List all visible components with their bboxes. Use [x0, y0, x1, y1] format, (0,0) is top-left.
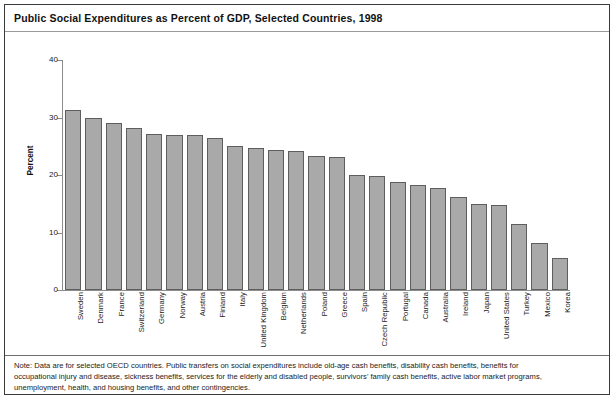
bar-slot [349, 60, 365, 290]
x-axis-tick-label: United States [502, 292, 511, 339]
bar [187, 135, 203, 290]
bar-slot [308, 60, 324, 290]
bar [288, 151, 304, 290]
x-axis-tick-label: Turkey [522, 292, 531, 316]
bar-slot [166, 60, 182, 290]
y-axis-tick-label: 10 [18, 228, 58, 237]
bar [349, 175, 365, 290]
title-divider [5, 31, 609, 32]
bar-slot [187, 60, 203, 290]
bar [65, 110, 81, 290]
x-axis-tick-label: Belgium [279, 292, 288, 320]
bar [410, 185, 426, 290]
bar-slot [85, 60, 101, 290]
bar [248, 148, 264, 290]
x-axis-tick-label: Netherlands [299, 292, 308, 334]
figure-note: Note: Data are for selected OECD countri… [14, 360, 600, 394]
bar-slot [410, 60, 426, 290]
bar [166, 135, 182, 290]
bar-slot [106, 60, 122, 290]
bar-slot [207, 60, 223, 290]
note-line: unemployment, health, and housing benefi… [14, 382, 600, 393]
bar-slot [552, 60, 568, 290]
x-axis-line [62, 290, 570, 291]
bar [106, 123, 122, 290]
x-axis-tick-label: Germany [157, 292, 166, 324]
x-axis-tick-label: United Kingdom [259, 292, 268, 347]
bar-slot [491, 60, 507, 290]
bar [329, 157, 345, 290]
bar-slot [288, 60, 304, 290]
x-axis-tick-label: Denmark [96, 292, 105, 324]
x-axis-tick-label: Poland [320, 292, 329, 316]
bar-slot [531, 60, 547, 290]
x-axis-tick-label: Korea [563, 292, 572, 313]
x-axis-tick-label: Sweden [76, 292, 85, 320]
bar-slot [450, 60, 466, 290]
figure-page: Public Social Expenditures as Percent of… [0, 0, 615, 399]
bar-slot [146, 60, 162, 290]
bar [268, 150, 284, 290]
bar-slot [227, 60, 243, 290]
x-axis-tick-label: Czech Republic [380, 292, 389, 347]
bar-slot [511, 60, 527, 290]
bar [471, 204, 487, 290]
bar [430, 188, 446, 290]
x-axis-tick-label: Greece [340, 292, 349, 318]
x-axis-tick-label: Australia [441, 292, 450, 322]
x-axis-tick-label: Canada [421, 292, 430, 319]
bar-slot [248, 60, 264, 290]
bar [85, 118, 101, 291]
bar [552, 258, 568, 290]
y-axis-tick-label: 40 [18, 55, 58, 64]
y-axis-tick-label: 0 [18, 285, 58, 294]
x-axis-tick-label: Japan [482, 292, 491, 313]
x-axis-tick-label: Switzerland [137, 292, 146, 332]
x-axis-tick-label: Finland [218, 292, 227, 318]
page-title: Public Social Expenditures as Percent of… [5, 12, 383, 24]
bar [146, 134, 162, 290]
bar-slot [65, 60, 81, 290]
bar [308, 156, 324, 290]
bar-slot [126, 60, 142, 290]
x-axis-tick-label: Norway [178, 292, 187, 318]
bar [227, 146, 243, 290]
bar-slot [268, 60, 284, 290]
bar-slot [329, 60, 345, 290]
bar [491, 205, 507, 290]
bar-slot [471, 60, 487, 290]
bar [531, 243, 547, 290]
x-axis-category-labels: SwedenDenmarkFranceSwitzerlandGermanyNor… [63, 292, 570, 354]
bar [390, 182, 406, 290]
bar-slot [390, 60, 406, 290]
x-axis-tick-label: Portugal [401, 292, 410, 321]
note-line: occupational injury and disease, sicknes… [14, 371, 600, 382]
note-divider [5, 355, 609, 356]
y-axis-tick-label: 20 [18, 170, 58, 179]
title-band: Public Social Expenditures as Percent of… [5, 5, 609, 31]
bar [369, 176, 385, 290]
bar [207, 138, 223, 290]
x-axis-tick-label: Austria [198, 292, 207, 316]
y-axis-tick-label: 30 [18, 113, 58, 122]
note-line: Note: Data are for selected OECD countri… [14, 360, 600, 371]
x-axis-tick-label: Mexico [543, 292, 552, 317]
plot-area: Percent 010203040 [62, 60, 570, 291]
x-axis-tick-label: Spain [360, 292, 369, 312]
x-axis-tick-label: Italy [238, 292, 247, 306]
bar [126, 128, 142, 290]
bar-slot [369, 60, 385, 290]
bar [450, 197, 466, 290]
bar-series [63, 60, 570, 290]
bar [511, 224, 527, 290]
bar-slot [430, 60, 446, 290]
x-axis-tick-label: Ireland [461, 292, 470, 316]
x-axis-tick-label: France [117, 292, 126, 316]
